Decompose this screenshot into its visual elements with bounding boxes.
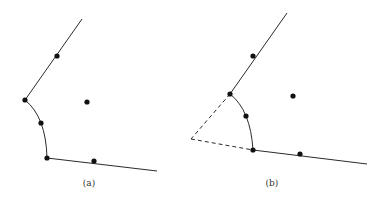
arc-mid-point [243, 113, 248, 118]
panel-b [191, 13, 367, 164]
panel-a [22, 19, 157, 171]
interior-point [290, 93, 295, 98]
interior-point [84, 99, 89, 104]
arc-mid-point [38, 120, 43, 125]
upper-boundary-line [230, 13, 287, 94]
dashed-extension-line [191, 139, 253, 150]
upper-line-point [54, 53, 59, 58]
upper-corner-point [22, 97, 27, 102]
circular-arc [230, 94, 253, 150]
lower-corner-point [250, 147, 255, 152]
lower-line-point [297, 151, 302, 156]
lower-line-point [91, 158, 96, 163]
circular-arc [25, 100, 47, 158]
panel-b-caption: (b) [266, 178, 279, 188]
upper-line-point [250, 53, 255, 58]
lower-boundary-line [47, 158, 157, 171]
diagram-canvas: (a) (b) [0, 0, 383, 198]
lower-corner-point [44, 155, 49, 160]
panel-a-caption: (a) [83, 178, 95, 188]
dashed-extension-line [191, 94, 230, 139]
lower-boundary-line [253, 150, 367, 164]
upper-corner-point [227, 91, 232, 96]
upper-boundary-line [25, 19, 82, 100]
